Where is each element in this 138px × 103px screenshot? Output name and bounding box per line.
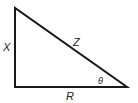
triangle-shape (15, 8, 127, 87)
label-hypotenuse: Z (72, 36, 81, 48)
label-vertical-side: X (2, 41, 11, 53)
label-horizontal-side: R (66, 90, 74, 102)
label-angle: θ (98, 76, 103, 86)
right-triangle-diagram: X Z θ R (0, 0, 138, 103)
